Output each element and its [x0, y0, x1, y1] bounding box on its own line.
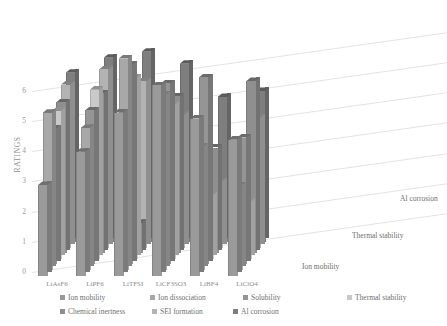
legend-item-label: Al corrosion	[241, 307, 279, 316]
bar-side-face	[242, 182, 246, 267]
bar-side-face	[61, 107, 65, 255]
bar-side-face	[142, 219, 146, 249]
bar-side-face	[123, 109, 127, 272]
bar-side-face	[256, 77, 260, 249]
bar-side-face	[94, 107, 98, 261]
bar-side-face	[204, 143, 208, 267]
bar-side-face	[180, 93, 184, 250]
legend-item-label: Thermal stability	[355, 293, 406, 302]
bar-side-face	[260, 114, 264, 244]
depth-axis-label-middle: Thermal stability	[352, 231, 403, 240]
legend-swatch-icon	[152, 309, 157, 314]
legend-swatch-icon	[243, 295, 248, 300]
bar-side-face	[208, 74, 212, 261]
bar-side-face	[199, 115, 203, 272]
bar-side-face	[128, 55, 132, 266]
bar-side-face	[246, 134, 250, 261]
bar-side-face	[99, 86, 103, 255]
bar-side-face	[161, 82, 165, 272]
legend-item-sei-formation[interactable]: SEI formation	[152, 307, 203, 316]
y-axis-tick-label: 1	[8, 238, 26, 246]
legend-item-label: SEI formation	[160, 307, 203, 316]
bar-side-face	[52, 109, 56, 266]
bar-side-face	[56, 125, 60, 261]
depth-axis-label-far: Al corrosion	[400, 194, 438, 203]
bar-side-face	[175, 101, 179, 255]
legend-swatch-icon	[60, 309, 65, 314]
legend-item-thermal-stability[interactable]: Thermal stability	[347, 293, 406, 302]
legend-item-label: Chemical inertness	[68, 307, 125, 316]
bar-side-face	[213, 192, 217, 255]
y-axis-tick-label: 6	[8, 87, 26, 95]
bar-ion-mobility-liclo4[interactable]	[228, 136, 242, 276]
legend-swatch-icon	[60, 295, 65, 300]
y-axis-tick-label: 0	[8, 268, 26, 276]
bar-ion-mobility-litfsi[interactable]	[114, 109, 128, 276]
bar-side-face	[47, 181, 51, 272]
legend-item-ion-dissociation[interactable]: Ion dissociation	[150, 293, 206, 302]
bar-side-face	[85, 148, 89, 272]
bar-side-face	[104, 90, 108, 250]
bar-ion-mobility-libf4[interactable]	[190, 115, 204, 276]
bar-side-face	[108, 66, 112, 244]
bar-side-face	[251, 198, 255, 255]
bar-ion-mobility-lipf6[interactable]	[76, 148, 90, 275]
gridline	[32, 32, 447, 92]
x-axis-label-liclo4: LiClO4	[222, 280, 272, 288]
bar-side-face	[146, 78, 150, 244]
bar-side-face	[132, 61, 136, 260]
legend-item-ion-mobility[interactable]: Ion mobility	[60, 293, 105, 302]
bar-side-face	[166, 91, 170, 266]
legend-swatch-icon	[347, 295, 352, 300]
legend-item-solubility[interactable]: Solubility	[243, 293, 281, 302]
legend-swatch-icon	[150, 295, 155, 300]
bar-side-face	[137, 74, 141, 255]
bar-side-face	[170, 80, 174, 261]
legend-swatch-icon	[233, 309, 238, 314]
bar-side-face	[237, 136, 241, 272]
y-axis-title: RATINGS	[13, 120, 22, 190]
bar-side-face	[222, 178, 226, 244]
legend-item-label: Ion dissociation	[158, 293, 206, 302]
bar-ion-mobility-liasf6[interactable]	[38, 181, 52, 275]
bar-ion-mobility-licf3so3[interactable]	[152, 82, 166, 276]
legend-item-label: Solubility	[251, 293, 281, 302]
depth-axis-label-near: Ion mobility	[302, 262, 339, 271]
bar-side-face	[265, 87, 269, 238]
legend-item-chemical-inertness[interactable]: Chemical inertness	[60, 307, 125, 316]
chart-legend: Ion mobilityIon dissociationSolubilityTh…	[0, 293, 447, 326]
bar-side-face	[70, 81, 74, 244]
y-axis-tick-label: 2	[8, 208, 26, 216]
bar-side-face	[218, 144, 222, 250]
bar-side-face	[90, 124, 94, 266]
plot-area: 6543210 RATINGS LiAsF6LiPF6LiTFSILiCF3SO…	[0, 0, 447, 285]
legend-item-label: Ion mobility	[68, 293, 105, 302]
bar-side-face	[184, 111, 188, 244]
bar-side-face	[66, 99, 70, 250]
chart-3d-bar: 6543210 RATINGS LiAsF6LiPF6LiTFSILiCF3SO…	[0, 0, 447, 326]
legend-item-al-corrosion[interactable]: Al corrosion	[233, 307, 279, 316]
